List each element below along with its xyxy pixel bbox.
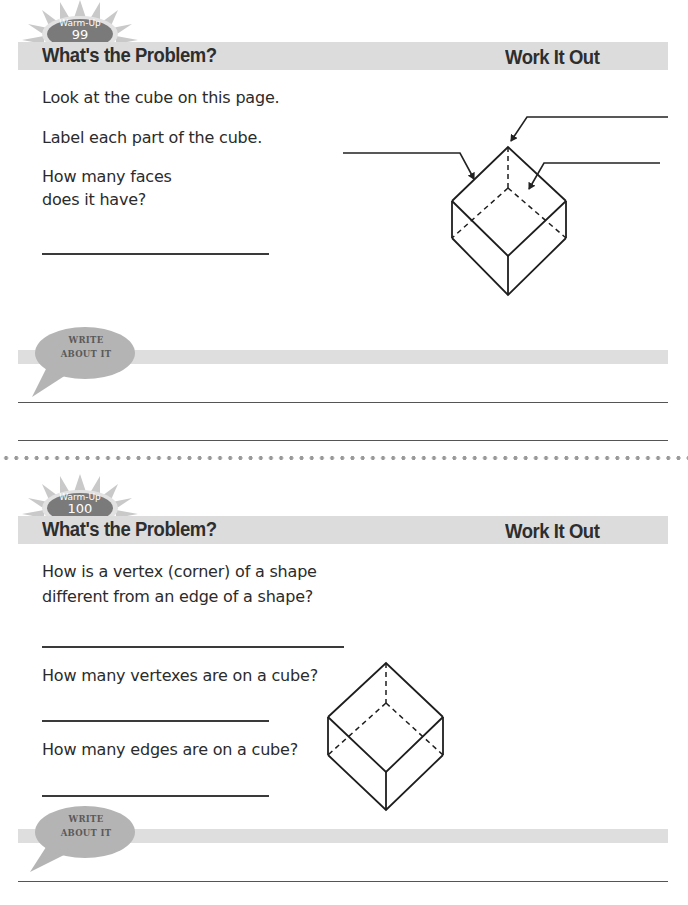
write-line[interactable] [18, 881, 668, 882]
bubble-line-1: WRITE [51, 812, 121, 826]
cube-diagram [0, 0, 688, 905]
bubble-line-2: ABOUT IT [51, 826, 121, 840]
write-about-it-label: WRITE ABOUT IT [51, 812, 121, 840]
